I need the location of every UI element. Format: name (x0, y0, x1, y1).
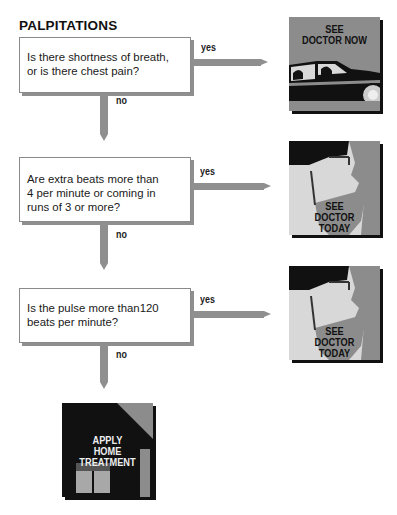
yes-label-3: yes (200, 293, 215, 305)
chart-title: PALPITATIONS (19, 18, 117, 33)
yes-arrow-3 (194, 311, 264, 318)
no-arrow-1 (100, 96, 108, 134)
yes-arrow-1 (194, 59, 261, 66)
question-text-2: Are extra beats more than 4 per minute o… (27, 172, 184, 214)
question-box-3: Is the pulse more than120 beats per minu… (19, 288, 191, 343)
outcome-text-2: SEE DOCTOR TODAY (294, 201, 374, 234)
yes-arrow-2 (194, 183, 264, 190)
outcome-text-1: SEE DOCTOR NOW (294, 24, 374, 46)
no-label-1: no (116, 94, 127, 106)
outcome-text-3: SEE DOCTOR TODAY (294, 326, 374, 359)
final-panel: APPLY HOME TREATMENT (62, 403, 153, 497)
question-text-1: Is there shortness of breath, or is ther… (27, 50, 184, 78)
question-text-3: Is the pulse more than120 beats per minu… (27, 301, 184, 329)
outcome-panel-3: SEE DOCTOR TODAY (289, 266, 380, 360)
outcome-panel-1: SEE DOCTOR NOW (289, 17, 380, 111)
yes-label-2: yes (200, 165, 215, 177)
yes-label-1: yes (201, 41, 216, 53)
no-arrow-2 (100, 225, 108, 263)
no-arrow-3 (100, 346, 108, 382)
question-box-2: Are extra beats more than 4 per minute o… (19, 157, 191, 222)
no-label-3: no (116, 348, 127, 360)
no-label-2: no (116, 228, 127, 240)
outcome-panel-2: SEE DOCTOR TODAY (289, 141, 380, 235)
final-text: APPLY HOME TREATMENT (67, 435, 147, 468)
question-box-1: Is there shortness of breath, or is ther… (19, 37, 191, 93)
